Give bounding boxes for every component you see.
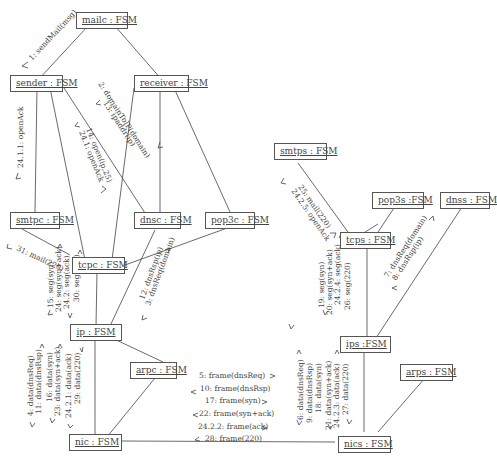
svg-text:26: seg(220): 26: seg(220) bbox=[343, 262, 352, 310]
msg-ip-nic: 4: data(dnsReq) 11: data(dnsRsp) 16: dat… bbox=[26, 346, 82, 418]
svg-text:29: data(220): 29: data(220) bbox=[73, 353, 82, 404]
node-arpc[interactable]: arpc : FSM bbox=[130, 362, 177, 379]
msg-smtps-tcps: 25: mail(220) 24.2.5: openAck bbox=[289, 183, 333, 243]
svg-text:28: frame(220): 28: frame(220) bbox=[205, 434, 262, 443]
msg-sender-smtpc: 24.1.1: openAck bbox=[16, 106, 25, 168]
msg-tcpc-ip: 15: seg(syn) 24: seg(syn+ack) 24.2: seg(… bbox=[46, 246, 81, 312]
node-pop3s[interactable]: pop3s :FSM bbox=[372, 192, 424, 209]
node-nic[interactable]: nic : FSM bbox=[69, 434, 122, 451]
svg-text:2: domainToIP(domain): 2: domainToIP(domain) bbox=[96, 80, 152, 159]
svg-text:9: data(dnsRsp): 9: data(dnsRsp) bbox=[305, 363, 314, 423]
svg-text:6: data(dnsReq): 6: data(dnsReq) bbox=[296, 359, 305, 420]
msg-ips-tcps: 19: seg(syn) 20: seg(syn+ack) 24.2.4: se… bbox=[317, 244, 352, 315]
svg-text:22: frame(syn+ack): 22: frame(syn+ack) bbox=[199, 409, 274, 418]
node-receiver[interactable]: receiver : FSM bbox=[134, 75, 189, 92]
msg-sender-tcpc: 14: open(ip,25) 24.1: openAck bbox=[77, 126, 114, 183]
svg-text:11: data(dnsRsp): 11: data(dnsRsp) bbox=[34, 349, 43, 414]
svg-text:10: frame(dnsRsp): 10: frame(dnsRsp) bbox=[200, 384, 271, 393]
svg-text:24.2.2: frame(ack): 24.2.2: frame(ack) bbox=[198, 422, 268, 431]
node-tcps[interactable]: tcps : FSM bbox=[340, 232, 391, 249]
node-dnss[interactable]: dnss : FSM bbox=[440, 192, 490, 209]
svg-text:5: frame(dnsReq): 5: frame(dnsReq) bbox=[199, 371, 265, 380]
msg-sender-receiver: 2: domainToIP(domain) 13: ipaddr(ip) bbox=[96, 80, 152, 159]
svg-text:24.1.1: openAck: 24.1.1: openAck bbox=[16, 106, 25, 168]
node-ips[interactable]: ips :FSM bbox=[340, 336, 391, 353]
node-tcpc[interactable]: tcpc : FSM bbox=[72, 257, 125, 274]
node-sender[interactable]: sender : FSM bbox=[10, 75, 63, 92]
node-arps[interactable]: arps : FSM bbox=[400, 364, 453, 381]
svg-text:24.2: seg(ack): 24.2: seg(ack) bbox=[62, 255, 71, 309]
svg-text:23: data(syn+ack): 23: data(syn+ack) bbox=[53, 346, 62, 416]
svg-text:18: data(syn): 18: data(syn) bbox=[314, 363, 323, 413]
node-ip[interactable]: ip : FSM bbox=[70, 324, 122, 341]
msg-dnsc-ip: 12: dnsRsp(ip) 3: dnsReq(domain) bbox=[137, 236, 176, 307]
svg-text:17: frame(syn): 17: frame(syn) bbox=[205, 396, 261, 405]
svg-text:27: data(220): 27: data(220) bbox=[341, 364, 350, 415]
msg-nics-ips: 6: data(dnsReq) 9: data(dnsRsp) 18: data… bbox=[296, 359, 350, 430]
node-nics[interactable]: nics : FSM bbox=[338, 436, 391, 453]
node-pop3c[interactable]: pop3c : FSM bbox=[205, 212, 255, 229]
msg-mailc-sender: 1: sendMail(msg) bbox=[27, 8, 79, 63]
svg-text:1: sendMail(msg): 1: sendMail(msg) bbox=[27, 8, 79, 63]
svg-text:24.2.1: data(ack): 24.2.1: data(ack) bbox=[64, 353, 73, 418]
node-dnsc[interactable]: dnsc : FSM bbox=[134, 212, 181, 229]
svg-text:24.2.3: data(ack): 24.2.3: data(ack) bbox=[332, 363, 341, 428]
node-smtps[interactable]: smtps : FSM bbox=[274, 143, 327, 160]
svg-text:24.2.4: seg(ack): 24.2.4: seg(ack) bbox=[333, 244, 342, 305]
msg-nic-nics: 5: frame(dnsReq) 10: frame(dnsRsp) 17: f… bbox=[198, 371, 274, 443]
node-mailc[interactable]: mailc : FSM bbox=[76, 12, 128, 29]
node-smtpc[interactable]: smtpc : FSM bbox=[10, 212, 60, 229]
